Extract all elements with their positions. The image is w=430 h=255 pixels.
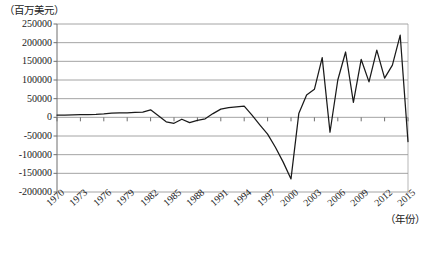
y-axis-tick-label: -50000 [4, 130, 52, 141]
y-axis-tick-label: 100000 [4, 74, 52, 85]
y-axis-tick-label: 250000 [4, 18, 52, 29]
y-axis-tick-label: 0 [4, 111, 52, 122]
y-axis-tick-label: 200000 [4, 37, 52, 48]
x-axis-unit-label: （年份） [385, 211, 425, 226]
chart-plot-area [0, 0, 430, 255]
data-series-line [57, 35, 408, 179]
chart-root: （百万美元） 250000200000150000100000500000-50… [0, 0, 430, 255]
y-axis-tick-label: 50000 [4, 93, 52, 104]
y-axis-tick-label: -200000 [4, 186, 52, 197]
y-axis-tick-label: -100000 [4, 149, 52, 160]
y-axis-tick-label: -150000 [4, 167, 52, 178]
y-axis-tick-label: 150000 [4, 55, 52, 66]
